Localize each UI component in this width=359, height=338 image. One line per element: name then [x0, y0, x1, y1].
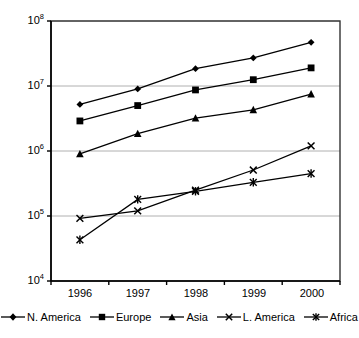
marker-diamond: [308, 39, 315, 46]
gridlines: [51, 21, 340, 281]
series-line: [80, 94, 311, 154]
y-tick-label-1e5: 105: [4, 209, 44, 221]
legend-label-asia: Asia: [186, 311, 207, 323]
star-marker-icon: [304, 311, 328, 323]
legend-item-europe[interactable]: Europe: [90, 311, 151, 323]
series-africa: [77, 169, 315, 244]
y-tick-label-1e4: 104: [4, 274, 44, 286]
x-tick-label-1999: 1999: [225, 287, 283, 299]
series-line: [80, 146, 311, 219]
legend-label-africa: Africa: [330, 311, 358, 323]
x-tick-label-2000: 2000: [283, 287, 341, 299]
marker-triangle: [307, 90, 315, 97]
marker-square: [250, 76, 257, 83]
x-tick-label-1996: 1996: [51, 287, 109, 299]
y-tick-label-1e7: 107: [4, 79, 44, 91]
x-tick-label-1998: 1998: [167, 287, 225, 299]
legend-item-asia[interactable]: Asia: [160, 311, 207, 323]
marker-cross-x: [308, 142, 315, 149]
marker-diamond: [192, 65, 199, 72]
cross-x-marker-icon: [217, 311, 241, 323]
marker-cross-x: [250, 167, 257, 174]
series-asia: [76, 90, 315, 157]
series-line: [80, 174, 311, 240]
marker-square: [134, 102, 141, 109]
marker-star: [77, 236, 84, 244]
x-tick-label-1997: 1997: [109, 287, 167, 299]
legend-item-africa[interactable]: Africa: [304, 311, 358, 323]
diamond-marker-icon: [1, 311, 25, 323]
chart-legend: N. America Europe Asia L. America: [0, 306, 359, 328]
marker-square: [77, 118, 84, 125]
y-tick-label-1e6: 106: [4, 144, 44, 156]
legend-label-europe: Europe: [116, 311, 151, 323]
y-tick-label-1e8: 108: [4, 14, 44, 26]
legend-item-l-america[interactable]: L. America: [217, 311, 295, 323]
series-line: [80, 68, 311, 121]
series-n-america: [77, 39, 315, 108]
marker-diamond: [134, 86, 141, 93]
line-chart: 108 107 106 105 104 1996 1997 1998 1999 …: [0, 0, 359, 338]
series-line: [80, 42, 311, 104]
triangle-marker-icon: [160, 311, 184, 323]
legend-item-n-america[interactable]: N. America: [1, 311, 81, 323]
square-marker-icon: [90, 311, 114, 323]
marker-diamond: [250, 55, 257, 62]
legend-label-l-america: L. America: [243, 311, 295, 323]
marker-square: [192, 87, 199, 94]
legend-label-n-america: N. America: [27, 311, 81, 323]
marker-diamond: [77, 101, 84, 108]
marker-square: [308, 64, 315, 71]
series-l-america: [77, 142, 315, 221]
